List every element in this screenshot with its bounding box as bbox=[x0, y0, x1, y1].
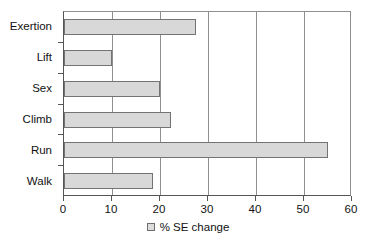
value-axis-tick-label: 40 bbox=[235, 203, 275, 215]
bar-chart: ExertionLiftSexClimbRunWalk 010203040506… bbox=[0, 0, 376, 243]
bar-exertion bbox=[64, 19, 196, 35]
bar-band bbox=[64, 12, 350, 43]
value-axis-tick bbox=[255, 196, 256, 201]
bar-lift bbox=[64, 50, 112, 66]
value-axis-tick bbox=[111, 196, 112, 201]
category-tick bbox=[58, 42, 63, 43]
bar-band bbox=[64, 43, 350, 74]
category-label-sex: Sex bbox=[32, 80, 52, 96]
legend-label: % SE change bbox=[160, 221, 230, 233]
bar-band bbox=[64, 135, 350, 166]
category-tick bbox=[58, 165, 63, 166]
category-tick bbox=[58, 134, 63, 135]
category-tick bbox=[58, 104, 63, 105]
value-axis-tick bbox=[303, 196, 304, 201]
value-axis-tick-label: 60 bbox=[331, 203, 371, 215]
legend: % SE change bbox=[0, 221, 376, 233]
value-axis-tick bbox=[351, 196, 352, 201]
bar-band bbox=[64, 74, 350, 105]
category-label-exertion: Exertion bbox=[10, 18, 52, 34]
category-label-run: Run bbox=[31, 142, 52, 158]
bar-run bbox=[64, 142, 328, 158]
category-label-lift: Lift bbox=[37, 49, 52, 65]
category-axis-labels: ExertionLiftSexClimbRunWalk bbox=[0, 11, 58, 196]
value-axis-tick-label: 50 bbox=[283, 203, 323, 215]
plot-area bbox=[63, 11, 351, 196]
value-axis-tick-label: 10 bbox=[91, 203, 131, 215]
legend-swatch-icon bbox=[147, 223, 155, 231]
value-axis-tick bbox=[207, 196, 208, 201]
value-axis-tick-label: 20 bbox=[139, 203, 179, 215]
bar-series bbox=[64, 12, 350, 195]
value-axis-tick bbox=[159, 196, 160, 201]
value-axis-tick bbox=[63, 196, 64, 201]
category-label-walk: Walk bbox=[27, 173, 52, 189]
category-label-climb: Climb bbox=[23, 111, 52, 127]
bar-walk bbox=[64, 173, 153, 189]
bar-band bbox=[64, 105, 350, 136]
value-axis-tick-label: 0 bbox=[43, 203, 83, 215]
category-tick bbox=[58, 73, 63, 74]
bar-sex bbox=[64, 81, 160, 97]
bar-climb bbox=[64, 112, 171, 128]
bar-band bbox=[64, 166, 350, 197]
value-axis-tick-label: 30 bbox=[187, 203, 227, 215]
